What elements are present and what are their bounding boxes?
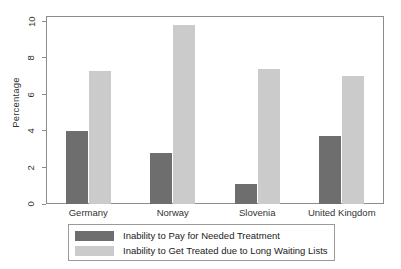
legend: Inability to Pay for Needed Treatment In… (68, 224, 335, 261)
legend-swatch-icon (75, 231, 114, 241)
y-axis-title: Percentage (6, 0, 24, 204)
y-axis-tick-label-text: 0 (26, 201, 36, 206)
legend-item: Inability to Pay for Needed Treatment (75, 229, 280, 242)
bar-chart-figure: Percentage 0246810 GermanyNorwaySlovenia… (0, 0, 401, 269)
bar (66, 131, 88, 204)
bar (342, 76, 364, 204)
y-axis-tick-label-text: 10 (26, 16, 36, 27)
bar (258, 69, 280, 204)
legend-item-label: Inability to Get Treated due to Long Wai… (123, 246, 328, 256)
bar (319, 136, 341, 204)
x-axis-tick-label: United Kingdom (308, 207, 376, 218)
y-axis-tick-label: 0 (23, 197, 39, 211)
bar (89, 71, 111, 204)
y-axis-tick-label-text: 6 (26, 92, 36, 97)
x-axis-tick-label: Slovenia (239, 207, 275, 218)
y-axis-tick-label-text: 4 (26, 128, 36, 133)
bar (150, 153, 172, 204)
legend-item-label: Inability to Pay for Needed Treatment (123, 231, 280, 241)
y-axis-tick-label: 2 (23, 160, 39, 174)
bar (235, 184, 257, 204)
y-axis-tick-label-text: 8 (26, 55, 36, 60)
y-axis-title-text: Percentage (10, 77, 21, 128)
y-axis-tick-label: 10 (23, 14, 39, 28)
x-axis-tick-label: Norway (157, 207, 189, 218)
x-axis-tick-label: Germany (69, 207, 108, 218)
bars-layer (46, 16, 384, 204)
legend-swatch-icon (75, 246, 114, 256)
y-axis-tick-label: 8 (23, 51, 39, 65)
y-axis-tick-label: 6 (23, 87, 39, 101)
y-axis-tick-label-text: 2 (26, 165, 36, 170)
bar (173, 25, 195, 204)
legend-item: Inability to Get Treated due to Long Wai… (75, 244, 328, 257)
y-axis-tick-label: 4 (23, 124, 39, 138)
